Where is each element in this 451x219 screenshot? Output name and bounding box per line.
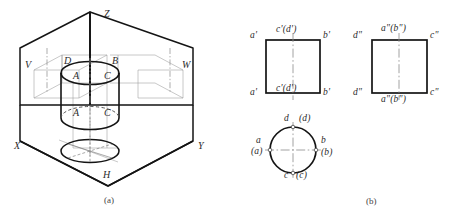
point-b-mark [314,148,318,152]
side-view-d-dprime-bottom: d" [353,88,362,98]
point-d-top-label: D [64,56,71,66]
caption-b: (b) [366,197,377,206]
plane-w-outline [90,12,193,105]
plane-w-label: W [182,60,191,70]
side-view-c-dprime-top: c" [430,31,439,41]
front-view-b-prime-top: b' [323,31,330,41]
axis-z-label: Z [104,9,110,19]
top-view-d-paren-label: (d) [299,114,311,124]
point-a-top-label: A [73,71,79,81]
cylinder-point-marks [89,72,91,74]
plane-h-label: H [103,170,110,180]
side-view-ab-dprime-bottom: a"(b") [381,95,406,105]
front-view-cd-prime-bottom: c'(d') [276,84,297,94]
point-c-bottom-label: C [104,108,111,118]
caption-a: (a) [104,196,114,205]
isometric-center-lines [47,25,170,158]
plane-v-label: V [25,60,31,70]
front-view-a-prime-top: a' [250,31,257,41]
side-view [372,33,427,100]
top-view-c-label: c [284,171,288,181]
point-a-mark [268,148,272,152]
point-d-mark [291,125,295,129]
side-view-c-dprime-bottom: c" [430,88,439,98]
top-view-d-label: d [284,114,289,124]
top-view-b-label: b [321,136,326,146]
front-view-a-prime-bottom: a' [250,88,257,98]
axis-y-label: Y [198,141,204,151]
isometric-view [20,12,193,186]
top-view [265,122,321,178]
front-view-cd-prime-top: c'(d') [276,25,297,35]
axis-x-label: X [14,141,20,151]
top-view-c-paren-label: (c) [296,171,307,181]
point-b-top-label: B [112,56,118,66]
front-view-b-prime-bottom: b' [323,88,330,98]
top-view-a-paren-label: (a) [251,147,263,157]
side-view-ab-dprime-top: a"(b") [381,24,406,34]
top-view-b-paren-label: (b) [321,148,333,158]
side-view-d-dprime-top: d" [353,31,362,41]
point-c-mark [291,171,295,175]
top-view-a-label: a [256,136,261,146]
side-view-square [372,40,427,93]
point-c-top-label: C [104,71,111,81]
point-a-bottom-label: A [73,108,79,118]
